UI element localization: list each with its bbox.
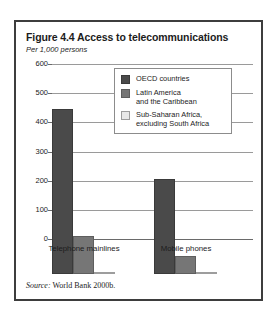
figure-inner: Figure 4.4 Access to telecommunications …	[16, 22, 261, 299]
gridline-600	[52, 64, 253, 65]
legend-label-0: OECD countries	[136, 74, 189, 83]
legend-swatch-icon-1	[121, 89, 130, 98]
source-value: World Bank 2000b.	[51, 281, 116, 290]
bar-1-2	[196, 272, 217, 274]
x-axis-label-1: Mobile phones	[140, 244, 232, 253]
source-label: Source:	[26, 281, 51, 290]
legend-swatch-icon-2	[121, 111, 130, 120]
chart-plot-wrapper: 0100200300400500600 OECD countriesLatin …	[26, 58, 255, 274]
bar-1-1	[175, 256, 196, 274]
source-note: Source: World Bank 2000b.	[26, 281, 115, 290]
bar-1-0	[154, 179, 175, 274]
bar-0-2	[94, 272, 115, 274]
x-axis-label-0: Telephone mainlines	[38, 244, 130, 253]
figure-subtitle: Per 1,000 persons	[26, 45, 251, 54]
figure-frame: Figure 4.4 Access to telecommunications …	[14, 20, 263, 301]
figure-title: Figure 4.4 Access to telecommunications	[26, 31, 251, 43]
bar-0-1	[73, 236, 94, 274]
legend-swatch-icon-0	[121, 75, 130, 84]
y-axis-ticks	[26, 64, 52, 239]
legend-item-0: OECD countries	[121, 74, 225, 84]
